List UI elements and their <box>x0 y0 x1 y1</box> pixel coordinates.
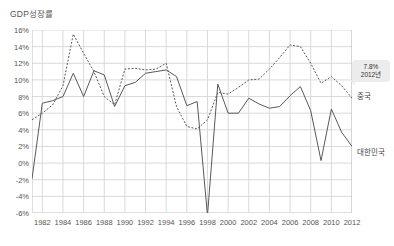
x-axis-tick: 1996 <box>178 218 195 227</box>
series-line-china <box>32 34 352 129</box>
y-axis-tick: 2% <box>18 142 29 151</box>
x-axis-tick: 1984 <box>55 218 72 227</box>
plot-area <box>32 30 352 213</box>
y-axis-tick: 0% <box>18 159 29 168</box>
y-axis-labels: 16%14%12%10%8%6%4%2%0%-2%-4%-6% <box>0 30 29 213</box>
y-axis-tick: 12% <box>14 59 29 68</box>
x-axis-labels: 1982198419861988199019921994199619982000… <box>32 218 352 232</box>
chart-container: GDP성장률 16%14%12%10%8%6%4%2%0%-2%-4%-6% 1… <box>0 0 394 246</box>
y-axis-tick: 16% <box>14 26 29 35</box>
x-axis-tick: 2012 <box>344 218 361 227</box>
series-line-korea <box>32 70 352 213</box>
x-axis-tick: 2002 <box>240 218 257 227</box>
tooltip-value: 7.8% <box>354 63 388 71</box>
series-label-korea: 대한민국 <box>357 146 385 157</box>
y-axis-tick: 8% <box>18 92 29 101</box>
x-axis-tick: 1994 <box>158 218 175 227</box>
x-axis-tick: 1998 <box>199 218 216 227</box>
y-axis-tick: 4% <box>18 125 29 134</box>
chart-title: GDP성장률 <box>10 7 54 19</box>
x-axis-tick: 1990 <box>117 218 134 227</box>
series-label-china: 중국 <box>357 90 371 101</box>
grid-lines <box>32 30 352 213</box>
x-axis-tick: 2010 <box>323 218 340 227</box>
x-axis-tick: 2000 <box>220 218 237 227</box>
chart-svg <box>32 30 352 213</box>
x-axis-tick: 1982 <box>34 218 51 227</box>
x-axis-tick: 1992 <box>137 218 154 227</box>
x-axis-tick: 2004 <box>261 218 278 227</box>
x-axis-tick: 1986 <box>75 218 92 227</box>
x-axis-tick: 2008 <box>302 218 319 227</box>
y-axis-tick: 10% <box>14 75 29 84</box>
x-axis-tick: 2006 <box>282 218 299 227</box>
y-axis-tick: 14% <box>14 42 29 51</box>
y-axis-tick: 6% <box>18 109 29 118</box>
y-axis-tick: -2% <box>16 175 29 184</box>
y-axis-tick: -6% <box>16 209 29 218</box>
data-tooltip: 7.8% 2012년 <box>352 60 390 82</box>
x-axis-tick: 1988 <box>96 218 113 227</box>
y-axis-tick: -4% <box>16 192 29 201</box>
tooltip-year: 2012년 <box>354 71 388 79</box>
